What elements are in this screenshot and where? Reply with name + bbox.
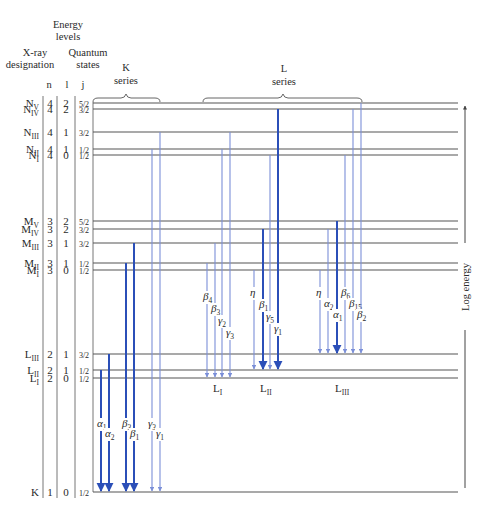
- level-n: 3: [47, 223, 53, 235]
- level-j: 1/2: [79, 489, 89, 498]
- level-j: 3/2: [79, 129, 89, 138]
- level-li: LI201/2: [30, 372, 458, 387]
- transition-l-γ5-lii: γ5: [265, 155, 277, 369]
- transition-label: η: [250, 286, 255, 298]
- level-j: 3/2: [79, 351, 89, 360]
- level-l: 2: [63, 223, 69, 235]
- level-n: 4: [47, 126, 53, 138]
- l-series-label-line2: series: [272, 76, 296, 87]
- k-series-brace: [93, 94, 160, 102]
- level-n: 3: [47, 237, 53, 249]
- level-l: 1: [63, 348, 69, 360]
- level-designation: NIII: [24, 126, 40, 141]
- level-l: 1: [63, 126, 69, 138]
- log-energy-label: Log energy: [460, 262, 471, 311]
- transition-l-β4-li: β4: [202, 263, 214, 377]
- l-series-label-line1: L: [281, 63, 287, 74]
- transitions: α1α2β3β1γ3γ1β4β3γ2γ3ηβ1γ5γ1ηα2α1β6β15β2: [96, 103, 368, 491]
- level-k: K101/2: [31, 486, 458, 498]
- level-l: 0: [63, 149, 69, 161]
- column-header-n: n: [46, 79, 52, 90]
- energy-levels-heading-line2: levels: [56, 31, 81, 42]
- transition-l-γ1-lii: γ1: [273, 109, 285, 369]
- series-labels: K series L series: [93, 62, 362, 102]
- energy-levels: NV425/2NIV423/2NIII413/2NII411/2NI401/2M…: [21, 97, 458, 498]
- energy-levels-heading-line1: Energy: [53, 19, 84, 30]
- level-n: 2: [47, 372, 53, 384]
- xray-designation-heading-line2: designation: [6, 59, 55, 70]
- transition-label: η: [316, 286, 321, 298]
- k-series-label-line2: series: [114, 75, 138, 86]
- level-mi: MI301/2: [27, 264, 458, 279]
- level-lii: LII211/2: [27, 364, 458, 379]
- level-niii: NIII413/2: [24, 126, 458, 141]
- xray-designation-heading-line1: X-ray: [23, 47, 48, 58]
- level-l: 0: [63, 486, 69, 498]
- transition-l-β6-liii: β6: [340, 155, 352, 353]
- xray-energy-level-diagram: Energy levels X-ray designation Quantum …: [0, 0, 487, 508]
- level-n: 3: [47, 264, 53, 276]
- level-j: 1/2: [79, 267, 89, 276]
- level-l: 0: [63, 264, 69, 276]
- transition-l-γ3-li: γ3: [225, 132, 237, 377]
- transition-l-β1-lii: β1: [258, 229, 270, 369]
- level-l: 2: [63, 103, 69, 115]
- transition-k-β1-k: β1: [129, 243, 141, 491]
- l-series-brace: [203, 94, 362, 102]
- transition-l-β2-liii: β2: [356, 103, 368, 353]
- transition-k-γ1-k: γ1: [155, 132, 167, 491]
- target-label-lii: LII: [260, 382, 272, 397]
- level-designation: K: [31, 486, 39, 498]
- level-nv: NV425/2: [26, 97, 458, 112]
- level-l: 0: [63, 372, 69, 384]
- level-n: 4: [47, 149, 53, 161]
- level-j: 1/2: [79, 152, 89, 161]
- level-miv: MIV323/2: [21, 223, 458, 238]
- k-series-label-line1: K: [122, 62, 130, 73]
- level-n: 2: [47, 348, 53, 360]
- level-j: 3/2: [79, 226, 89, 235]
- transition-l-η-liii: η: [315, 270, 327, 353]
- level-j: 3/2: [79, 240, 89, 249]
- level-n: 4: [47, 103, 53, 115]
- header: Energy levels X-ray designation Quantum …: [6, 19, 108, 90]
- level-niv: NIV423/2: [23, 103, 458, 118]
- level-n: 1: [47, 486, 53, 498]
- quantum-states-heading-line2: states: [76, 59, 99, 70]
- level-j: 1/2: [79, 375, 89, 384]
- level-liii: LIII213/2: [25, 348, 458, 363]
- level-designation: MIII: [22, 237, 40, 252]
- level-j: 3/2: [79, 106, 89, 115]
- level-miii: MIII313/2: [22, 237, 458, 252]
- transition-k-β3-k: β3: [121, 263, 133, 491]
- quantum-states-heading-line1: Quantum: [68, 47, 107, 58]
- column-header-j: j: [81, 79, 85, 90]
- level-designation: LIII: [25, 348, 40, 363]
- target-label-li: LI: [213, 382, 223, 397]
- target-level-labels: LILIILIII: [213, 382, 350, 397]
- level-l: 1: [63, 237, 69, 249]
- level-nii: NII411/2: [26, 143, 458, 158]
- target-label-liii: LIII: [335, 382, 350, 397]
- column-header-l: l: [66, 79, 69, 90]
- log-energy-axis: Log energy: [460, 106, 471, 488]
